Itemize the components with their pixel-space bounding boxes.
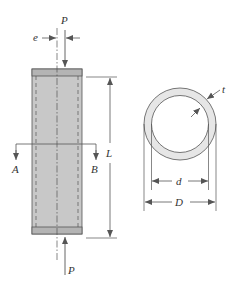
load-bottom-label: P <box>67 264 75 276</box>
load-bottom: P <box>65 237 75 276</box>
inner-circle <box>152 96 209 153</box>
length-label: L <box>105 147 112 159</box>
column-elevation <box>32 28 82 262</box>
length-dimension: L <box>86 77 117 238</box>
outer-diameter-label: D <box>174 196 183 208</box>
eccentricity-dimension: e <box>33 31 80 43</box>
load-top-label: P <box>60 14 68 26</box>
section-label-b: B <box>91 163 98 175</box>
load-top: P <box>60 14 68 67</box>
t-arrow-outer-icon <box>207 90 220 99</box>
eccentricity-label: e <box>33 31 38 43</box>
thickness-label: t <box>222 83 226 95</box>
section-label-a: A <box>11 163 19 175</box>
cross-section: t d D <box>144 83 226 211</box>
inner-diameter-label: d <box>176 175 182 187</box>
column-diagram: P P e A B L t <box>0 0 237 288</box>
